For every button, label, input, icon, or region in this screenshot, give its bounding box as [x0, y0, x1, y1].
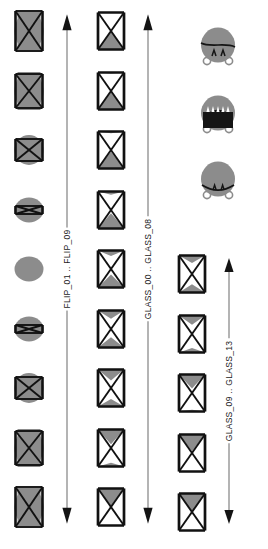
- glyph-glass_01: [94, 426, 128, 470]
- bite-label-hitsbite: HITSBITE: [245, 170, 268, 188]
- glyph-cell-flip_08: [0, 68, 58, 114]
- glyph-cell-flip_07: [0, 127, 58, 173]
- arrow-rail-glass-a: GLASS_00 .. GLASS_08: [137, 12, 159, 526]
- glyph-flip_01: [12, 485, 46, 529]
- bite-icon-openbite: [195, 87, 241, 139]
- glyph-glass_05: [94, 188, 128, 232]
- bite-icon-missbite: [195, 19, 241, 71]
- glyph-flip_03: [12, 366, 46, 410]
- glyph-cell-glass_06: [82, 127, 140, 173]
- glyph-cell-glass_01: [82, 425, 140, 471]
- glyph-glass_04: [94, 247, 128, 291]
- glyph-cell-glass_00: [82, 484, 140, 530]
- glyph-flip_09: [12, 9, 46, 53]
- glyph-flip_05: [12, 247, 46, 291]
- glyph-cell-glass_04: [82, 246, 140, 292]
- glyph-cell-flip_05: [0, 246, 58, 292]
- bite-label-openbite: OPENBITE: [245, 104, 268, 122]
- glyph-cell-flip_06: [0, 187, 58, 233]
- glyph-flip_02: [12, 426, 46, 470]
- rail-label-glass-a: GLASS_00 .. GLASS_08: [142, 217, 154, 322]
- arrow-rail-flip: FLIP_01 .. FLIP_09: [56, 12, 78, 526]
- rail-label-flip: FLIP_01 .. FLIP_09: [61, 227, 73, 310]
- glyph-flip_04: [12, 307, 46, 351]
- bite-icon-cell-missbite: MISSBITE: [193, 12, 243, 78]
- glyph-glass_06: [94, 128, 128, 172]
- glyph-cell-flip_04: [0, 306, 58, 352]
- glyph-glass_08: [94, 9, 128, 53]
- glyph-flip_08: [12, 69, 46, 113]
- glyph-cell-flip_03: [0, 365, 58, 411]
- bite-icon-cell-openbite: OPENBITE: [193, 80, 243, 146]
- glyph-cell-glass_03: [82, 306, 140, 352]
- glyph-flip_07: [12, 128, 46, 172]
- bite-icon-hitsbite: [195, 153, 241, 205]
- glyph-cell-glass_07: [82, 68, 140, 114]
- rotated-diagram-canvas: FLIP_01 .. FLIP_09 GLASS_00 .. GLASS_08 …: [0, 0, 268, 549]
- glyph-flip_06: [12, 188, 46, 232]
- glyph-glass_00: [94, 485, 128, 529]
- column-bite-icons: HITSBITEOPENBITEMISSBITE: [193, 0, 268, 549]
- glyph-glass_02: [94, 366, 128, 410]
- column-glass-sequence-a: [82, 0, 140, 549]
- glyph-cell-glass_08: [82, 8, 140, 54]
- bite-label-missbite: MISSBITE: [245, 36, 268, 54]
- glyph-glass_07: [94, 69, 128, 113]
- bite-icon-cell-hitsbite: HITSBITE: [193, 146, 243, 212]
- glyph-cell-flip_01: [0, 484, 58, 530]
- glyph-cell-glass_05: [82, 187, 140, 233]
- column-flip-sequence: [0, 0, 58, 549]
- glyph-cell-glass_02: [82, 365, 140, 411]
- glyph-glass_03: [94, 307, 128, 351]
- glyph-cell-flip_02: [0, 425, 58, 471]
- glyph-cell-flip_09: [0, 8, 58, 54]
